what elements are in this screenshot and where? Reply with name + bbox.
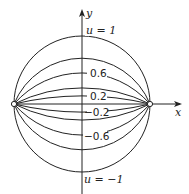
y-axis-label: y	[85, 7, 93, 20]
label-0.2: 0.2	[90, 90, 107, 102]
label-u-1: u = 1	[86, 24, 116, 37]
label-minus-0.2: −0.2	[84, 106, 110, 118]
label-0.6: 0.6	[90, 67, 107, 79]
x-axis-label: x	[175, 106, 182, 119]
focus-right-icon	[147, 101, 152, 106]
label-u-minus-1: u = −1	[84, 173, 124, 186]
focus-left-icon	[11, 101, 16, 106]
bipolar-diagram: y x u = 1 0.6 0.2 −0.2 −0.6 u = −1	[0, 0, 189, 194]
label-minus-0.6: −0.6	[84, 130, 110, 142]
